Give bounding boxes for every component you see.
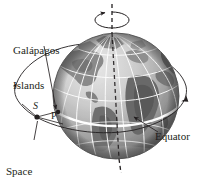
label-galapagos-line2: Islands <box>13 80 59 92</box>
label-space-shuttle-line1: Space <box>6 166 35 178</box>
label-space-shuttle: Space shuttle <box>6 143 35 180</box>
label-galapagos-line1: Galápagos <box>13 45 59 57</box>
globe-diagram: Galápagos Islands Space shuttle Equator … <box>0 0 211 180</box>
label-point-p: P <box>51 110 57 122</box>
label-point-s: S <box>33 100 38 112</box>
label-equator: Equator <box>155 131 190 143</box>
leader-space-shuttle <box>34 121 38 140</box>
